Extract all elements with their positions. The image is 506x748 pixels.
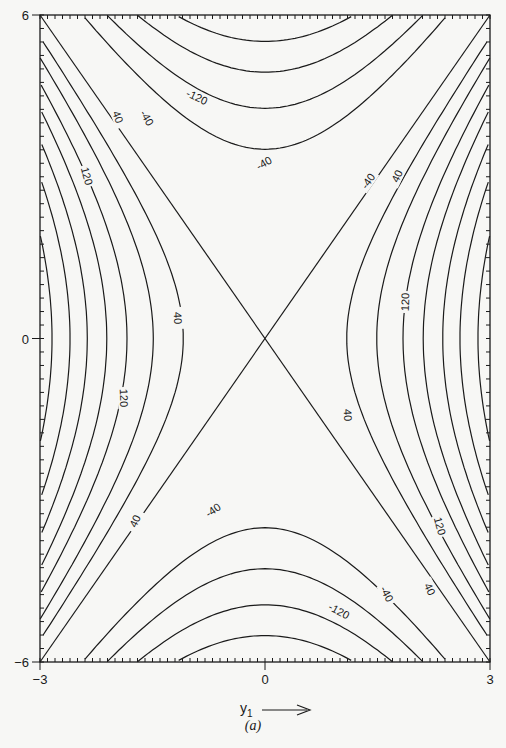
x-tick-label: −3: [33, 672, 48, 687]
xlabel-arrow-icon: [262, 705, 310, 715]
contour-plot: 40-40-12012040120-4040-401204040-40120-4…: [0, 0, 506, 748]
contour-label: 40: [172, 312, 184, 325]
contour-labels: 40-40-12012040120-4040-401204040-40120-4…: [78, 87, 448, 622]
contour-positive: [42, 182, 70, 495]
contour-negative: [179, 17, 352, 42]
contour-lines: [40, 15, 490, 662]
contour-label: 120: [79, 166, 95, 187]
contour-negative: [108, 569, 423, 662]
contour-label: 120: [118, 389, 131, 408]
contour-positive: [347, 42, 487, 635]
x-tick-label: 3: [486, 672, 493, 687]
figure-caption: (a): [0, 718, 506, 734]
x-axis-label: y1y1: [240, 700, 253, 719]
y-tick-label: −6: [14, 655, 29, 670]
contour-label: 40: [342, 409, 354, 422]
contour-negative: [138, 15, 393, 72]
contour-negative: [138, 605, 393, 662]
contour-label: -120: [184, 87, 209, 107]
contour-positive: [403, 85, 489, 592]
contour-positive: [43, 42, 183, 635]
contour-label: -120: [326, 601, 351, 622]
contour-positive: [40, 58, 153, 619]
contour-negative: [85, 18, 445, 149]
contour-positive: [41, 85, 127, 592]
x-tick-label: 0: [261, 672, 268, 687]
contour-negative: [108, 16, 423, 109]
contour-label: 120: [399, 293, 412, 312]
contour-label: 120: [432, 516, 448, 537]
contour-negative: [179, 636, 352, 661]
contour-positive: [460, 182, 488, 495]
y-tick-label: 0: [22, 332, 29, 347]
y-tick-label: 6: [22, 8, 29, 23]
contour-positive: [377, 58, 490, 619]
